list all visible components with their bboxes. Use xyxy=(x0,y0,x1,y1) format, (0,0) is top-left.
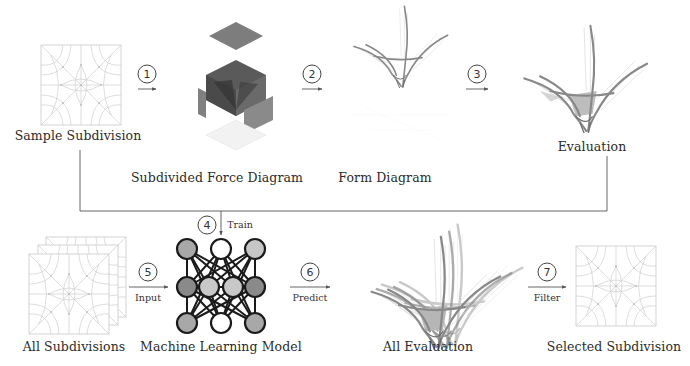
all-subdivisions-stack xyxy=(29,237,126,334)
step-7-badge: 7 xyxy=(538,263,557,282)
selected-subdivision-label: Selected Subdivision xyxy=(547,339,681,354)
evaluation-graphic xyxy=(524,26,647,133)
all-subdivisions-label: All Subdivisions xyxy=(23,339,126,354)
all-evaluation-label: All Evaluation xyxy=(383,339,473,354)
all-evaluation-graphic xyxy=(372,225,523,349)
step-2-badge: 2 xyxy=(303,65,322,84)
step-3-badge: 3 xyxy=(468,65,487,84)
evaluation-label: Evaluation xyxy=(558,139,627,154)
subdivided-force-diagram-graphic xyxy=(198,22,273,150)
step-1-badge: 1 xyxy=(138,65,157,84)
step-4-badge: 4 xyxy=(198,216,217,235)
machine-learning-model-graphic xyxy=(177,239,265,333)
force-diagram-label: Subdivided Force Diagram xyxy=(131,170,303,185)
form-diagram-label: Form Diagram xyxy=(338,170,431,185)
form-diagram-graphic xyxy=(354,6,448,88)
train-label: Train xyxy=(227,219,253,230)
predict-label: Predict xyxy=(293,292,328,303)
ml-model-label: Machine Learning Model xyxy=(140,339,302,354)
input-label: Input xyxy=(135,292,161,303)
step-5-badge: 5 xyxy=(139,263,158,282)
selected-subdivision-grid xyxy=(576,246,656,326)
sample-subdivision-label: Sample Subdivision xyxy=(15,128,142,143)
step-6-badge: 6 xyxy=(301,263,320,282)
sample-subdivision-grid xyxy=(41,45,121,125)
filter-label: Filter xyxy=(534,292,561,303)
training-connector xyxy=(80,150,607,235)
